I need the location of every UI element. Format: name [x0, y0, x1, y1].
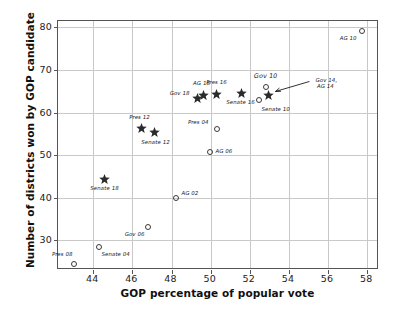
data-point-circle	[214, 126, 220, 132]
gridline-horizontal	[58, 113, 377, 114]
y-axis-tick-label: 30	[30, 234, 52, 245]
point-label: AG 06	[215, 149, 233, 155]
gridline-horizontal	[58, 70, 377, 71]
y-axis-tick	[54, 198, 58, 199]
point-label: AG 10	[340, 36, 358, 42]
data-point-circle	[173, 195, 179, 201]
y-axis-tick	[54, 155, 58, 156]
y-axis-tick-label: 60	[30, 106, 52, 117]
x-axis-tick-label: 58	[360, 273, 373, 284]
y-axis-title: Number of districts won by GOP candidate	[24, 10, 36, 270]
x-axis-title: GOP percentage of popular vote	[57, 287, 378, 299]
callout-label: Gov 14, AG 14	[314, 78, 338, 90]
gridline-vertical	[289, 21, 290, 268]
point-label: Senate 04	[101, 253, 130, 259]
point-label: Senate 12	[141, 140, 170, 146]
gridline-horizontal	[58, 198, 377, 199]
y-axis-tick	[54, 113, 58, 114]
point-label: Pres 16	[205, 80, 227, 86]
gridline-horizontal	[58, 27, 377, 28]
x-axis-tick-label: 48	[164, 273, 177, 284]
gridline-vertical	[328, 21, 329, 268]
gridline-vertical	[93, 21, 94, 268]
point-label: Senate 10	[261, 107, 290, 113]
point-label: Gov 10	[254, 72, 279, 79]
data-point-circle	[256, 97, 262, 103]
point-label: Gov 18	[169, 91, 190, 97]
y-axis-tick	[54, 27, 58, 28]
y-axis-tick	[54, 240, 58, 241]
y-axis-tick-label: 50	[30, 149, 52, 160]
gridline-vertical	[172, 21, 173, 268]
point-label: Senate 18	[90, 186, 119, 192]
point-label: Senate 16	[226, 100, 255, 106]
y-axis-tick-label: 70	[30, 63, 52, 74]
y-axis-tick	[54, 70, 58, 71]
x-axis-tick-label: 50	[203, 273, 216, 284]
y-axis-tick-label: 80	[30, 21, 52, 32]
data-point-circle	[96, 244, 102, 250]
gridline-horizontal	[58, 240, 377, 241]
x-axis-tick-label: 44	[86, 273, 99, 284]
gridline-vertical	[211, 21, 212, 268]
scatter-plot-figure: GOP percentage of popular vote Number of…	[0, 0, 402, 315]
gridline-vertical	[250, 21, 251, 268]
data-point-circle	[207, 149, 213, 155]
point-label: Pres 12	[129, 115, 151, 121]
data-point-circle	[71, 261, 77, 267]
gridline-vertical	[367, 21, 368, 268]
data-point-circle	[359, 28, 365, 34]
x-axis-tick-label: 46	[125, 273, 138, 284]
plot-area	[57, 20, 378, 269]
x-axis-tick-label: 52	[243, 273, 256, 284]
y-axis-tick-label: 40	[30, 191, 52, 202]
x-axis-tick-label: 54	[282, 273, 295, 284]
gridline-horizontal	[58, 155, 377, 156]
point-label: Pres 04	[187, 120, 209, 126]
point-label: Gov 06	[124, 232, 145, 238]
point-label: Pres 08	[51, 252, 73, 258]
data-point-circle	[145, 224, 151, 230]
x-axis-tick-label: 56	[321, 273, 334, 284]
data-point-circle	[263, 84, 269, 90]
point-label: AG 02	[181, 191, 199, 197]
